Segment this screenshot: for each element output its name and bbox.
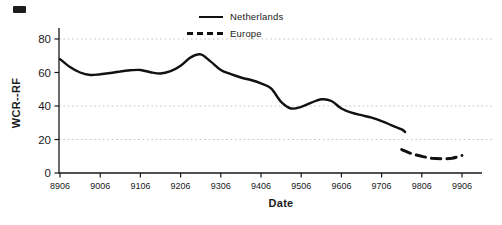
x-tick-label-9606: 9606 (331, 181, 351, 191)
y-tick-label-60: 60 (38, 67, 51, 79)
y-tick-label-40: 40 (38, 100, 51, 112)
europe-line-sample-icon (187, 32, 223, 35)
x-axis-title: Date (268, 197, 293, 209)
y-tick-label-0: 0 (45, 167, 51, 179)
x-tick-label-9506: 9506 (291, 181, 311, 191)
chart-figure: 0204060808906900691069206930694069506960… (0, 0, 502, 225)
x-tick-label-9906: 9906 (452, 181, 472, 191)
x-tick-label-9806: 9806 (412, 181, 432, 191)
netherlands-line-sample-icon (199, 16, 223, 18)
netherlands-line (60, 54, 405, 132)
x-tick-label-9206: 9206 (171, 181, 191, 191)
y-tick-label-20: 20 (38, 134, 51, 146)
legend: Netherlands Europe (186, 8, 283, 42)
legend-item-europe: Europe (186, 25, 283, 42)
axes (59, 28, 482, 173)
x-tick-label-9706: 9706 (372, 181, 392, 191)
y-tick-label-80: 80 (38, 33, 51, 45)
europe-line (402, 150, 462, 159)
x-tick-label-9006: 9006 (90, 181, 110, 191)
legend-label-europe: Europe (230, 28, 262, 39)
y-axis-title: WCR--RF (10, 78, 22, 128)
x-tick-label-9306: 9306 (211, 181, 231, 191)
legend-label-netherlands: Netherlands (230, 11, 283, 22)
x-tick-label-8906: 8906 (50, 181, 70, 191)
legend-item-netherlands: Netherlands (186, 8, 283, 25)
x-tick-label-9406: 9406 (251, 181, 271, 191)
x-tick-label-9106: 9106 (130, 181, 150, 191)
